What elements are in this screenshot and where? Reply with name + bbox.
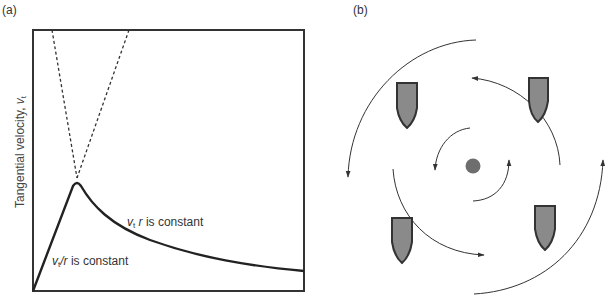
panel-a-label: (a) — [2, 3, 17, 17]
boat-shape-upper-left — [397, 83, 417, 128]
annotation-vt-r-constant: vt r is constant — [127, 215, 204, 230]
vortex-center-dot — [466, 159, 481, 174]
boat-shape-lower-right — [535, 206, 555, 250]
boat-shape-upper-right — [529, 78, 548, 122]
panel-b: (b) — [348, 3, 603, 294]
dashed-extrapolation-left — [52, 30, 77, 178]
boat-shape-lower-left — [392, 218, 412, 263]
figure: (a) Tangential velocity, vt vt r is cons… — [0, 0, 608, 300]
annotation-vt-over-r-constant: vt/r is constant — [52, 254, 129, 269]
velocity-profile-curve — [33, 183, 304, 291]
panel-a: (a) Tangential velocity, vt vt r is cons… — [2, 3, 304, 291]
panel-b-label: (b) — [353, 3, 368, 17]
dashed-extrapolation-right — [77, 30, 129, 178]
inner-arc-upper-left-arrow — [435, 128, 470, 170]
y-axis-label: Tangential velocity, vt — [13, 95, 28, 208]
